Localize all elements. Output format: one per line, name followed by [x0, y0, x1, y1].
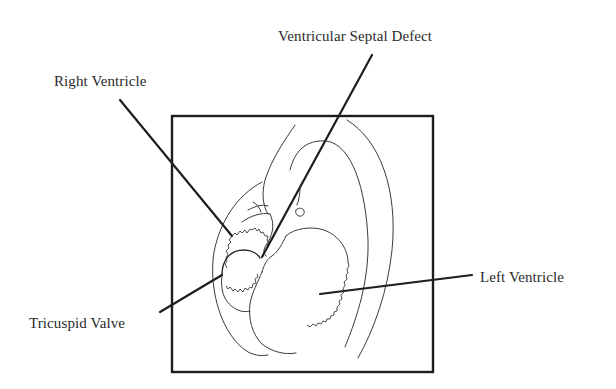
label-ventricular-septal-defect: Ventricular Septal Defect: [278, 29, 432, 44]
leader-right-ventricle: [120, 100, 232, 236]
leader-tricuspid-valve: [160, 275, 222, 312]
label-right-ventricle: Right Ventricle: [54, 74, 146, 89]
right-ventricle-outline: [213, 125, 295, 356]
left-ventricle-outline: [250, 188, 350, 354]
image-frame: [172, 116, 433, 372]
tricuspid-valve-leaflets: [222, 228, 269, 312]
label-left-ventricle: Left Ventricle: [480, 270, 564, 285]
diagram-canvas: Right Ventricle Ventricular Septal Defec…: [0, 0, 616, 389]
leader-ventricular-septal-defect: [262, 55, 372, 257]
label-tricuspid-valve: Tricuspid Valve: [29, 316, 125, 331]
leader-left-ventricle: [320, 275, 472, 294]
aorta-outline: [290, 120, 393, 358]
